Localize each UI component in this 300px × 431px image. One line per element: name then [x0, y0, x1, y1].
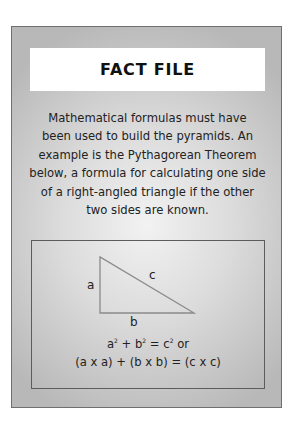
formula-operator: =: [146, 337, 163, 351]
formula-suffix: or: [173, 337, 189, 351]
body-line: Mathematical formulas must have: [22, 109, 273, 127]
formula-squares: a2 + b2 = c2 or: [32, 337, 264, 351]
side-label-a: a: [87, 278, 94, 292]
body-line: been used to build the pyramids. An: [22, 127, 273, 145]
fact-file-panel: FACT FILE Mathematical formulas must hav…: [11, 26, 282, 408]
pythagorean-diagram: a c b a2 + b2 = c2 or (a x a) + (b x b) …: [31, 240, 265, 389]
body-line: example is the Pythagorean Theorem: [22, 146, 273, 164]
side-label-b: b: [130, 315, 138, 329]
side-label-c: c: [149, 268, 156, 282]
body-line: two sides are known.: [22, 201, 273, 219]
body-line: below, a formula for calculating one sid…: [22, 164, 273, 182]
fact-file-body: Mathematical formulas must have been use…: [22, 109, 273, 219]
formula-products: (a x a) + (b x b) = (c x c): [32, 355, 264, 369]
body-line: of a right-angled triangle if the other: [22, 183, 273, 201]
fact-file-title: FACT FILE: [100, 60, 195, 79]
title-banner: FACT FILE: [30, 48, 265, 91]
formula-operator: +: [118, 337, 135, 351]
formula-term: a: [107, 337, 114, 351]
